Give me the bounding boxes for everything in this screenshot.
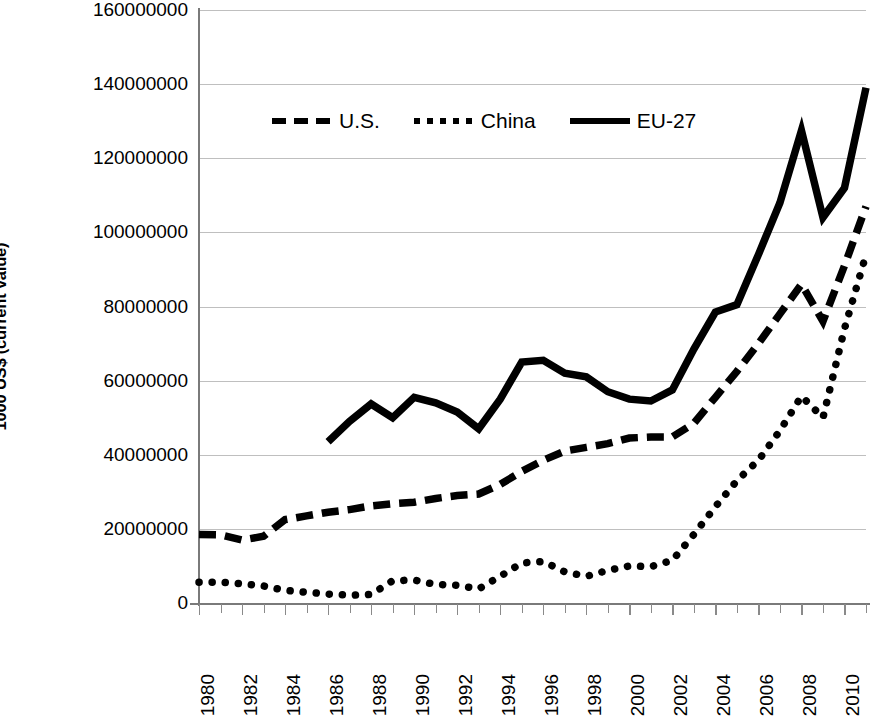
x-axis-tick-label: 1996 — [542, 674, 561, 716]
legend-item[interactable]: U.S. — [272, 110, 380, 131]
x-axis-tick-label: 2000 — [628, 674, 647, 716]
legend-dashed-line-icon — [272, 118, 332, 124]
x-axis-tick-label: 1998 — [585, 674, 604, 716]
series-line-china — [199, 255, 866, 596]
x-axis-tick-label: 2008 — [800, 674, 819, 716]
x-axis-tick-label: 2010 — [843, 674, 862, 716]
x-axis-tick-label: 1980 — [198, 674, 217, 716]
legend-item[interactable]: EU-27 — [570, 110, 697, 131]
x-axis-tick-label: 1994 — [499, 674, 518, 716]
x-axis-tick-label: 2006 — [757, 674, 776, 716]
x-axis-tick-label: 1992 — [456, 674, 475, 716]
legend-item-label: EU-27 — [637, 110, 697, 131]
legend-item[interactable]: China — [414, 110, 536, 131]
legend-item-label: China — [481, 110, 536, 131]
x-axis-tick-label: 2002 — [671, 674, 690, 716]
x-axis-tick-label: 1984 — [284, 674, 303, 716]
chart-legend: U.S.ChinaEU-27 — [272, 110, 696, 131]
series-line-eu-27 — [328, 88, 866, 442]
x-axis-tick-label: 1988 — [370, 674, 389, 716]
x-axis-tick-label: 1986 — [327, 674, 346, 716]
series-line-u-s — [199, 206, 866, 540]
legend-dotted-line-icon — [414, 118, 474, 124]
legend-solid-line-icon — [570, 118, 630, 124]
legend-item-label: U.S. — [339, 110, 380, 131]
x-axis-tick-label: 1982 — [241, 674, 260, 716]
x-axis-tick-label: 1990 — [413, 674, 432, 716]
x-axis-tick-label: 2004 — [714, 674, 733, 716]
